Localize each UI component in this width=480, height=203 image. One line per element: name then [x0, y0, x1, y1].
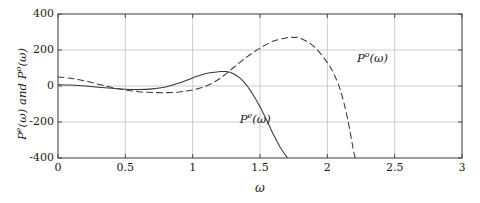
annotation-base: P: [240, 112, 248, 126]
annotation-base: P: [357, 51, 365, 65]
annotation-argument: (ω): [252, 112, 270, 126]
plot-area: [0, 0, 480, 203]
annotation-pe: Pe(ω): [240, 113, 271, 125]
annotation-argument: (ω): [370, 51, 388, 65]
figure-container: Pe(ω) and Po(ω) ω 4002000-200-400 00.511…: [0, 0, 480, 203]
curve-po: [58, 37, 357, 159]
annotation-po: Po(ω): [357, 52, 388, 64]
